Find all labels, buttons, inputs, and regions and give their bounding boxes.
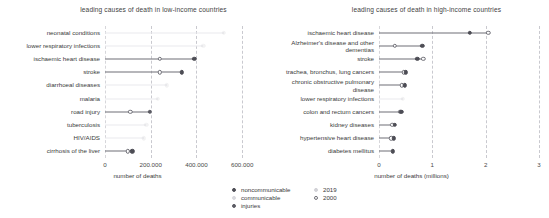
legend-entry[interactable]: 2000 [314, 194, 337, 202]
x-tick-label: 1 [431, 161, 434, 168]
data-point-2019[interactable] [165, 83, 169, 87]
category-label: tuberculosis [67, 121, 100, 128]
plot-row: neonatal conditions [105, 26, 265, 39]
legend-swatch-icon [314, 196, 318, 200]
x-axis-title-high-income: number of deaths (millions) [274, 172, 549, 179]
data-point-2000[interactable] [421, 57, 425, 61]
data-point-2019[interactable] [467, 30, 471, 34]
category-label: lower respiratory infections [300, 95, 374, 102]
data-point-2000[interactable] [486, 30, 490, 34]
connector-line [105, 45, 203, 46]
category-label: malaria [80, 95, 100, 102]
legend-entry[interactable]: communicable [232, 194, 290, 202]
data-point-2000[interactable] [393, 44, 397, 48]
x-tick-label: 0 [377, 161, 380, 168]
connector-line [105, 58, 194, 59]
chart-title-low-income: leading causes of death in low-income co… [0, 6, 275, 13]
data-point-2019[interactable] [420, 44, 424, 48]
plot-row: ischaemic heart disease [105, 52, 265, 65]
data-point-2019[interactable] [155, 96, 159, 100]
plot-area-high-income: ischaemic heart diseaseAlzheimer's disea… [379, 26, 539, 158]
legend-entry[interactable]: noncommunicable [232, 186, 290, 194]
plot-area-low-income: neonatal conditionslower respiratory inf… [105, 26, 265, 158]
gridline [539, 26, 540, 158]
connector-line [379, 45, 422, 46]
plot-row: lower respiratory infections [379, 92, 539, 105]
category-label: stroke [357, 55, 374, 62]
chart-title-high-income: leading causes of death in high-income c… [274, 6, 549, 13]
connector-line [105, 98, 158, 99]
panel-high-income: leading causes of death in high-income c… [274, 0, 549, 180]
x-tick-label: 3 [537, 161, 540, 168]
connector-line [379, 98, 403, 99]
legend-entry[interactable]: injuries [232, 202, 290, 210]
data-point-2019[interactable] [201, 44, 205, 48]
plot-row: kidney diseases [379, 118, 539, 131]
data-point-2019[interactable] [147, 110, 151, 114]
data-point-2019[interactable] [402, 83, 406, 87]
data-point-2019[interactable] [392, 136, 396, 140]
legend-entry[interactable]: 2019 [314, 186, 337, 194]
plot-row: Alzheimer's disease and other dementias [379, 39, 539, 52]
legend-label: 2019 [323, 186, 337, 193]
connector-line [105, 124, 146, 125]
category-label: stroke [83, 69, 100, 76]
plot-row: chronic obstructive pulmonary disease [379, 79, 539, 92]
connector-line [105, 72, 182, 73]
plot-row: diarrhoeal diseases [105, 79, 265, 92]
plot-row: stroke [105, 66, 265, 79]
category-label: road injury [71, 108, 100, 115]
category-label: Alzheimer's disease and other dementias [282, 39, 374, 53]
data-point-2019[interactable] [192, 57, 196, 61]
x-tick-label: 200.000 [140, 161, 162, 168]
category-label: lower respiratory infections [26, 42, 100, 49]
x-tick-label: 0 [103, 161, 106, 168]
category-label: chronic obstructive pulmonary disease [282, 78, 374, 92]
plot-row: road injury [105, 105, 265, 118]
legend-label: communicable [241, 194, 280, 201]
plot-row: trachea, bronchus, lung cancers [379, 66, 539, 79]
legend-cause-group: noncommunicablecommunicableinjuries [232, 186, 290, 210]
data-point-2000[interactable] [158, 57, 162, 61]
dual-dot-plot-figure: leading causes of death in low-income co… [0, 0, 549, 218]
category-label: HIV/AIDS [74, 135, 100, 142]
category-label: cirrhosis of the liver [47, 148, 100, 155]
data-point-2019[interactable] [179, 70, 183, 74]
category-label: diabetes mellitus [328, 148, 374, 155]
plot-row: tuberculosis [105, 118, 265, 131]
legend-swatch-icon [232, 204, 236, 208]
data-point-2019[interactable] [399, 110, 403, 114]
category-label: neonatal conditions [47, 29, 100, 36]
connector-line [105, 85, 167, 86]
plot-row: cirrhosis of the liver [105, 145, 265, 158]
plot-row: colon and rectum cancers [379, 105, 539, 118]
data-point-2019[interactable] [393, 123, 397, 127]
plot-row: malaria [105, 92, 265, 105]
data-point-2000[interactable] [158, 70, 162, 74]
data-point-2019[interactable] [403, 70, 407, 74]
data-point-2019[interactable] [222, 30, 226, 34]
panel-low-income: leading causes of death in low-income co… [0, 0, 275, 180]
category-label: trachea, bronchus, lung cancers [286, 69, 374, 76]
data-point-2019[interactable] [144, 123, 148, 127]
category-label: ischaemic heart disease [308, 29, 374, 36]
plot-row: diabetes mellitus [379, 145, 539, 158]
category-label: ischaemic heart disease [34, 55, 100, 62]
plot-row: hypertensive heart disease [379, 132, 539, 145]
legend-label: injuries [241, 202, 260, 209]
connector-line [379, 32, 488, 33]
data-point-2000[interactable] [128, 110, 132, 114]
legend-year-group: 20192000 [314, 186, 337, 202]
data-point-2019[interactable] [142, 136, 146, 140]
category-label: diarrhoeal diseases [46, 82, 100, 89]
plot-row: ischaemic heart disease [379, 26, 539, 39]
legend-label: noncommunicable [241, 186, 290, 193]
x-tick-label: 400.000 [185, 161, 207, 168]
legend-swatch-icon [314, 188, 318, 192]
data-point-2019[interactable] [130, 149, 134, 153]
x-tick-label: 2 [484, 161, 487, 168]
data-point-2019[interactable] [391, 149, 395, 153]
data-point-2019[interactable] [415, 57, 419, 61]
category-label: hypertensive heart disease [300, 135, 374, 142]
data-point-2019[interactable] [401, 96, 405, 100]
